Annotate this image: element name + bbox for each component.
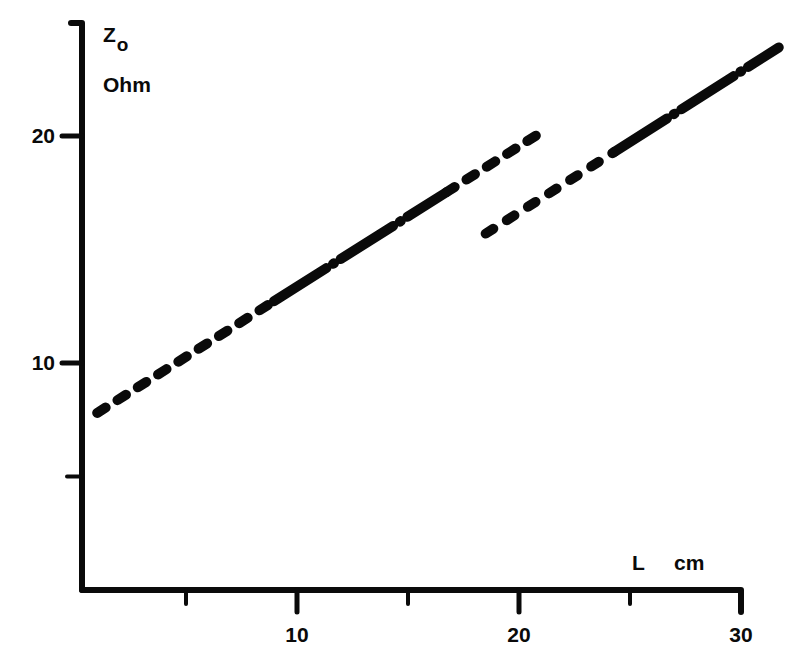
x-axis-unit: cm	[674, 552, 704, 573]
series-line-2	[615, 47, 779, 151]
y-axis	[71, 23, 82, 590]
x-tick-label: 10	[267, 624, 327, 645]
series-line-1	[97, 301, 274, 413]
ticks	[62, 136, 630, 612]
y-axis-title: Zo	[103, 24, 127, 45]
x-tick-label: 20	[489, 624, 549, 645]
y-tick-label: 10	[0, 352, 55, 373]
x-axis-title: L	[632, 552, 645, 573]
x-axis	[82, 590, 741, 612]
series-line-1	[446, 134, 539, 193]
x-tick-label: 30	[711, 624, 771, 645]
data-series	[97, 47, 779, 412]
y-tick-label: 20	[0, 125, 55, 146]
series-line-1	[274, 192, 446, 301]
axes	[71, 23, 741, 612]
y-axis-unit: Ohm	[103, 74, 151, 95]
y-axis-title-main: Z	[103, 23, 116, 46]
y-axis-title-subscript: o	[117, 34, 129, 55]
series-line-2	[486, 152, 615, 234]
